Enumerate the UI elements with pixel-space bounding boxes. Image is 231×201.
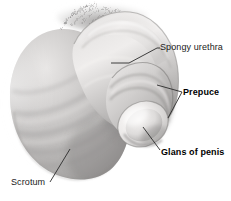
label-glans-of-penis: Glans of penis bbox=[161, 147, 224, 157]
label-scrotum: Scrotum bbox=[11, 177, 45, 187]
label-spongy-urethra: Spongy urethra bbox=[160, 42, 223, 52]
label-prepuce: Prepuce bbox=[183, 87, 219, 97]
anatomy-illustration bbox=[0, 0, 231, 201]
anatomy-figure: Spongy urethra Prepuce Glans of penis Sc… bbox=[0, 0, 231, 201]
